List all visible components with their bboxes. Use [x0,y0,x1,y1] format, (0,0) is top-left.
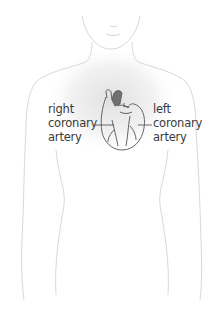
label-line: artery [48,130,97,144]
right-coronary-artery-label: right coronary artery [48,102,97,144]
label-line: coronary [153,116,202,130]
anatomy-diagram: right coronary artery left coronary arte… [0,0,221,316]
label-line: left [153,102,202,116]
head-outline [82,16,140,49]
label-line: coronary [48,116,97,130]
label-line: right [48,102,97,116]
label-line: artery [153,130,202,144]
left-coronary-artery-label: left coronary artery [153,102,202,144]
torso-illustration [0,0,221,316]
